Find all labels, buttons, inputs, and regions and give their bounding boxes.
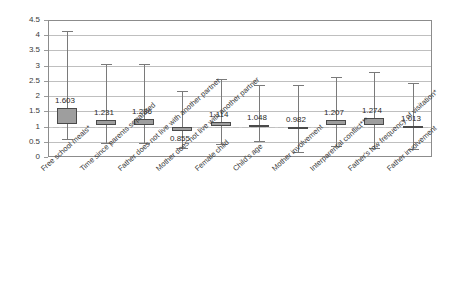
box-value-label: 1.207	[324, 109, 344, 117]
box-rect	[96, 120, 116, 125]
box-value-label: 1.048	[247, 114, 267, 122]
y-axis-tick-label: 3.5	[2, 46, 40, 54]
whisker-cap-upper	[408, 83, 419, 84]
y-axis-tick-label: 0	[2, 153, 40, 161]
box-value-label: 1.603	[55, 97, 75, 105]
y-axis-tick-label: 2.5	[2, 77, 40, 85]
box-plot-chart: 00.511.522.533.544.5 1.6031.2311.2360.85…	[0, 0, 453, 308]
whisker-line	[144, 64, 145, 143]
box-value-label: 0.982	[286, 116, 306, 124]
whisker-cap-upper	[177, 91, 188, 92]
whisker-cap-upper	[101, 64, 112, 65]
y-axis-tick-label: 4	[2, 31, 40, 39]
y-axis-tick-label: 0.5	[2, 138, 40, 146]
whisker-line	[106, 64, 107, 143]
whisker-cap-upper	[369, 72, 380, 73]
box-rect	[288, 127, 308, 129]
y-axis-tick-label: 3	[2, 62, 40, 70]
box-rect	[249, 125, 269, 127]
box-rect	[172, 127, 192, 131]
y-axis-tick-label: 4.5	[2, 16, 40, 24]
box-rect	[326, 120, 346, 125]
y-axis-tick-label: 2	[2, 92, 40, 100]
box-value-label: 1.231	[94, 109, 114, 117]
box-rect	[403, 126, 423, 128]
whisker-cap-upper	[331, 77, 342, 78]
whisker-cap-upper	[62, 31, 73, 32]
box-rect	[57, 108, 77, 123]
whisker-cap-upper	[139, 64, 150, 65]
box-value-label: 1.274	[362, 107, 382, 115]
whisker-cap-lower	[254, 141, 265, 142]
whisker-cap-upper	[293, 85, 304, 86]
y-axis-tick-label: 1	[2, 123, 40, 131]
y-axis-tick-label: 1.5	[2, 107, 40, 115]
